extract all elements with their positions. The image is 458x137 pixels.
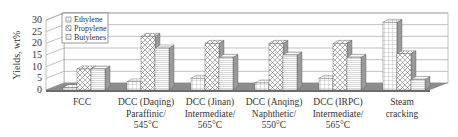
chart-legend: EthylenePropyleneButylenes — [62, 13, 108, 43]
y-tick-label: 5 — [37, 72, 42, 83]
x-category-label: DCC (Jinan)Intermediate/565°C — [185, 97, 236, 130]
y-tick-label: 20 — [32, 37, 42, 48]
legend-label: Ethylene — [74, 15, 103, 24]
y-tick-label: 25 — [32, 26, 42, 37]
bar-butylenes — [155, 45, 174, 90]
bar-butylenes — [91, 66, 110, 90]
legend-label: Propylene — [74, 24, 107, 33]
y-tick-label: 10 — [32, 61, 42, 72]
bar-butylenes — [411, 77, 430, 91]
chart-canvas: 051015202530 FCCDCC (Daqing)Paraffinic/5… — [0, 0, 458, 137]
legend-swatch-ethylene — [66, 17, 71, 22]
yields-bar-chart: 051015202530 FCCDCC (Daqing)Paraffinic/5… — [0, 0, 458, 137]
legend-swatch-butylenes — [66, 35, 71, 40]
x-category-label: DCC (IRPC)Intermediate/565°C — [313, 97, 364, 130]
y-axis: 051015202530 — [32, 14, 42, 95]
y-tick-label: 15 — [32, 49, 42, 60]
legend-label: Butylenes — [74, 33, 106, 42]
x-category-label: FCC — [73, 97, 91, 107]
y-axis-label: Yields, wt% — [11, 31, 22, 80]
bar-butylenes — [219, 54, 238, 90]
x-category-label: DCC (Anqing)Naphthetic/550°C — [246, 97, 303, 130]
x-category-label: DCC (Daqing)Paraffinic/545°C — [118, 97, 174, 130]
x-category-label: Steamcracking — [386, 97, 419, 119]
bar-butylenes — [283, 52, 302, 90]
y-tick-label: 30 — [32, 14, 42, 25]
y-tick-label: 0 — [37, 84, 42, 95]
legend-swatch-propylene — [66, 26, 71, 31]
bar-butylenes — [347, 54, 366, 90]
x-axis: FCCDCC (Daqing)Paraffinic/545°CDCC (Jina… — [73, 97, 419, 130]
